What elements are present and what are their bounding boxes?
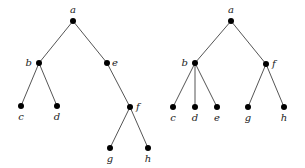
edge-b-e [195,63,217,107]
node-g [245,104,251,110]
node-b [36,60,42,66]
edge-f-h [130,107,148,148]
node-label-h: h [281,112,287,123]
node-c [18,103,24,109]
node-g [107,145,113,151]
edge-a-e [73,21,107,63]
edge-b-d [39,63,57,106]
node-h [145,145,151,151]
node-h [281,104,287,110]
edge-f-g [248,64,266,107]
edge-f-h [266,64,284,107]
node-e [214,104,220,110]
node-label-c: c [170,112,176,123]
node-c [170,104,176,110]
node-label-b: b [182,57,188,68]
node-f [127,104,133,110]
node-label-d: d [192,112,198,123]
edge-a-b [39,21,73,63]
node-label-f: f [271,58,278,69]
node-label-e: e [214,112,220,123]
node-d [54,103,60,109]
edge-a-b [195,21,231,63]
node-label-c: c [18,111,24,122]
tree-diagram-canvas: abecdfgh abfcdegh [0,0,305,168]
node-label-f: f [135,101,142,112]
edge-f-g [110,107,130,148]
node-d [192,104,198,110]
edge-b-c [173,63,195,107]
node-label-a: a [70,4,76,15]
node-label-d: d [54,111,60,122]
node-f [263,61,269,67]
node-label-a: a [228,4,234,15]
node-label-g: g [245,112,251,123]
node-label-e: e [112,57,118,68]
node-label-b: b [26,57,32,68]
edge-a-f [231,21,266,64]
node-a [228,18,234,24]
edge-b-c [21,63,39,106]
left-tree: abecdfgh [18,4,151,164]
node-e [104,60,110,66]
right-tree: abfcdegh [170,4,287,123]
edge-e-f [107,63,130,107]
node-label-h: h [145,153,151,164]
node-b [192,60,198,66]
node-a [70,18,76,24]
node-label-g: g [107,153,113,164]
